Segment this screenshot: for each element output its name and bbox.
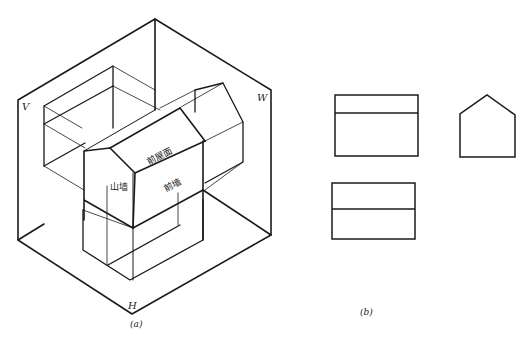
w-plane-label: W [257, 93, 267, 103]
figure-b-caption: (b) [360, 308, 373, 317]
v-plane-label: V [22, 102, 29, 112]
v-plane-projection [44, 66, 160, 190]
projection-box [18, 19, 271, 314]
three-view-projection-diagram [0, 0, 528, 347]
front-view [335, 95, 418, 156]
figure-b-views [332, 95, 515, 239]
house [84, 108, 205, 280]
side-view [460, 95, 515, 157]
top-view [332, 183, 415, 239]
figure-a-caption: (a) [130, 320, 142, 329]
gable-wall-label: 山墙 [110, 183, 128, 192]
h-plane-label: H [128, 301, 137, 311]
